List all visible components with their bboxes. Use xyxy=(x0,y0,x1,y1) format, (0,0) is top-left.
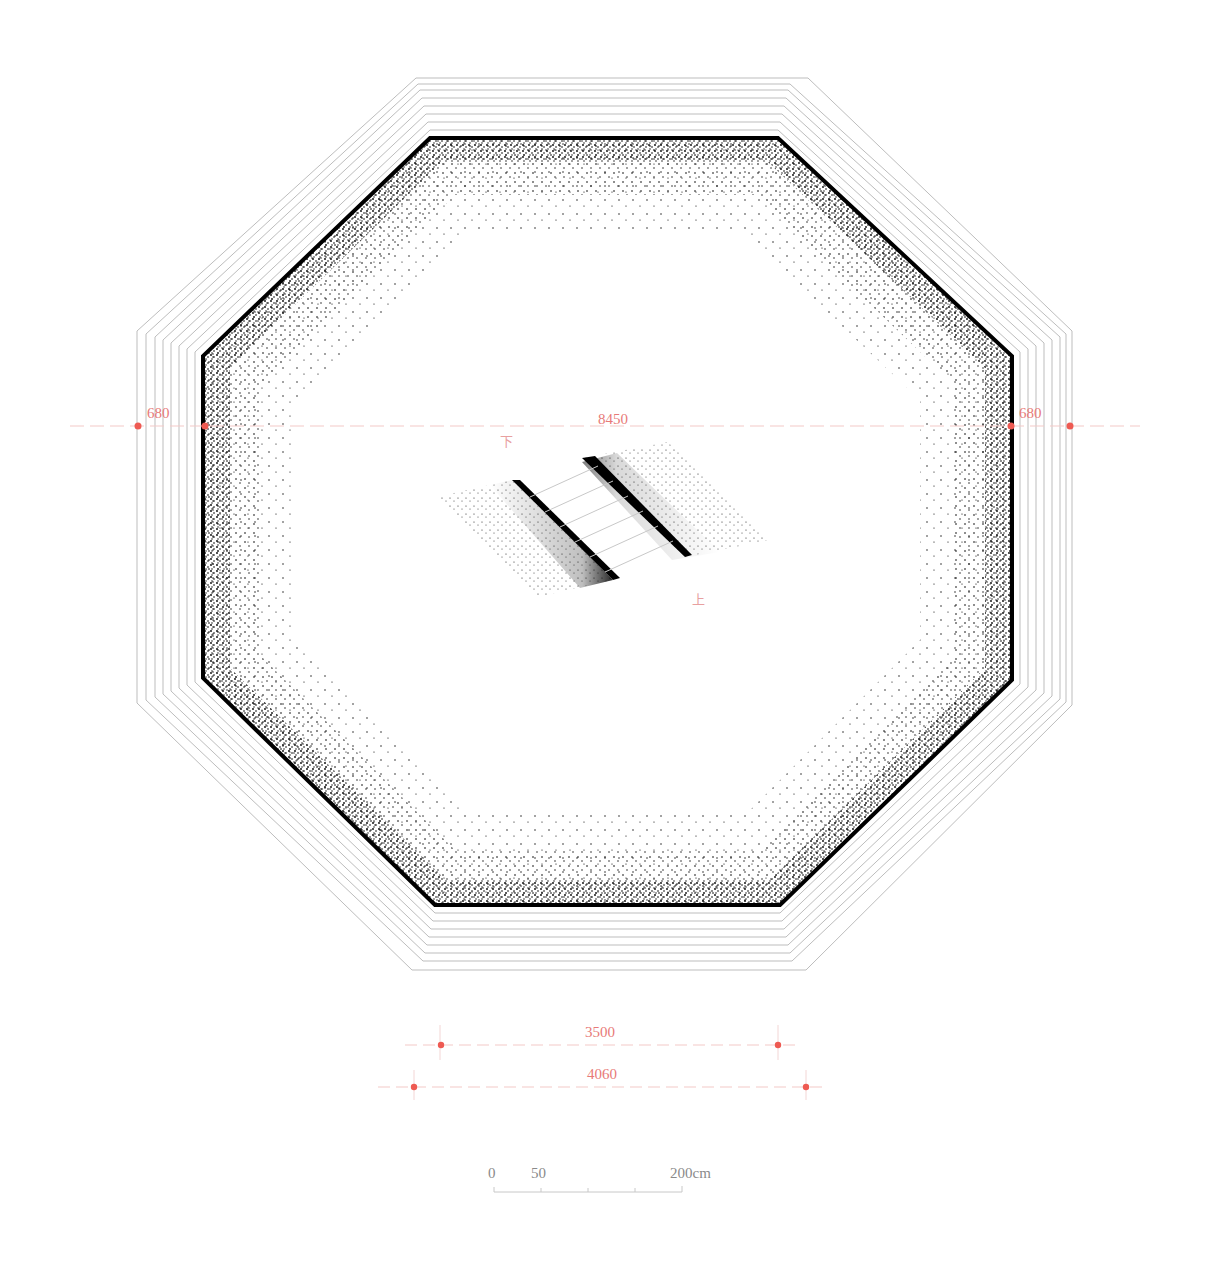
dim-main-span: 8450 xyxy=(598,411,628,427)
stair-label-down: 下 xyxy=(500,434,513,449)
bottom-dimensions: 3500 4060 xyxy=(378,1024,826,1100)
central-staircase: 下 上 xyxy=(436,434,770,607)
scale-tick-0: 0 xyxy=(488,1165,496,1181)
dimension-dot xyxy=(411,1084,417,1090)
dimension-dot xyxy=(1008,423,1015,430)
stippled-wall xyxy=(203,138,1012,905)
scale-tick-50: 50 xyxy=(531,1165,546,1181)
dim-left-offset: 680 xyxy=(147,405,170,421)
dim-outer-edge: 4060 xyxy=(587,1066,617,1082)
dim-inner-edge: 3500 xyxy=(585,1024,615,1040)
scale-bar: 0 50 200cm xyxy=(488,1165,711,1192)
stair-label-up: 上 xyxy=(692,592,705,607)
octagon-plan-drawing: 下 上 680 8450 680 3500 4060 0 50 200cm xyxy=(0,0,1206,1264)
scale-tick-200cm: 200cm xyxy=(670,1165,711,1181)
dimension-dot xyxy=(438,1042,444,1048)
dimension-dot xyxy=(775,1042,781,1048)
dimension-dot xyxy=(1067,423,1074,430)
dimension-dot xyxy=(202,423,209,430)
dimension-dot xyxy=(803,1084,809,1090)
dim-right-offset: 680 xyxy=(1019,405,1042,421)
dimension-dot xyxy=(135,423,142,430)
